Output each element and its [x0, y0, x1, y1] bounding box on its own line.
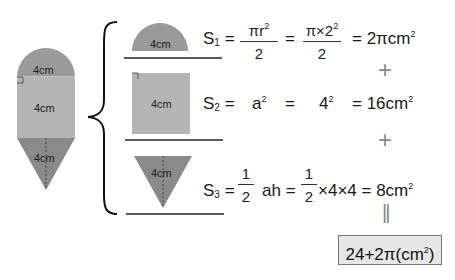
square-label: 4cm [151, 98, 172, 110]
s1-equals: = [285, 30, 295, 47]
plus-sign-1: + [378, 58, 392, 82]
s2-expr-2: 42 [319, 95, 333, 112]
s1-fraction-1: πr2 2 [240, 22, 278, 61]
brace-icon [88, 22, 117, 214]
triangle-label: 4cm [151, 167, 172, 179]
s1-fraction-2: π×22 2 [303, 22, 341, 61]
s2-label: S2 = [203, 95, 235, 113]
left-square-label: 4cm [34, 102, 55, 114]
plus-sign-2: + [378, 128, 392, 152]
equals-vertical: || [382, 202, 388, 222]
s3-fraction-2: 1 2 [301, 166, 317, 204]
s3-fraction-1: 1 2 [238, 166, 254, 204]
s2-result: = 16cm2 [352, 95, 413, 112]
s3-label: S3 = [203, 182, 235, 200]
left-semicircle-label: 4cm [33, 64, 54, 76]
s1-result: = 2πcm2 [352, 30, 416, 47]
s2-expr-1: a2 [252, 95, 266, 112]
s1-label: S1 = [203, 30, 235, 48]
s2-equals: = [285, 95, 295, 112]
semicircle-label: 4cm [150, 38, 171, 50]
result-box: 24+2π(cm2) [338, 235, 442, 265]
left-triangle-label: 4cm [34, 152, 55, 164]
s3-expr-1: ah = [262, 182, 296, 199]
s3-result: ×4×4 = 8cm2 [318, 182, 413, 199]
